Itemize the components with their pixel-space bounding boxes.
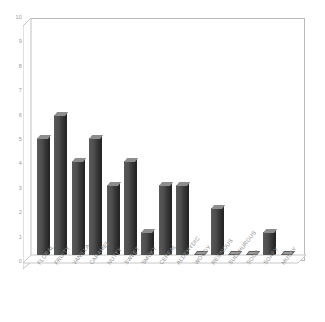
- bar-slot: [122, 18, 139, 261]
- bar-slot: [174, 18, 191, 261]
- bar-side-face: [65, 112, 67, 255]
- bar-slot: [70, 18, 87, 261]
- bar-floral[interactable]: [37, 138, 48, 255]
- bar-cereal[interactable]: [159, 185, 170, 255]
- bar-sweet[interactable]: [124, 161, 135, 255]
- bar-slot: [52, 18, 69, 261]
- bar-fruity[interactable]: [54, 115, 65, 255]
- y-tick-1: 1: [0, 234, 22, 241]
- y-tick-3: 3: [0, 185, 22, 192]
- bar-side-face: [100, 135, 102, 255]
- bar-slot: [105, 18, 122, 261]
- bar-side-face: [83, 159, 85, 255]
- bar-series: [31, 18, 305, 261]
- y-tick-8: 8: [0, 63, 22, 70]
- y-tick-4: 4: [0, 160, 22, 167]
- y-tick-0: 0: [0, 258, 22, 265]
- bar-slot: [139, 18, 156, 261]
- bar-slot: [261, 18, 278, 261]
- bar-slot: [157, 18, 174, 261]
- bar-slot: [35, 18, 52, 261]
- bar-slot: [244, 18, 261, 261]
- bar-slot: [192, 18, 209, 261]
- bar-chart: 10 9 8 7 6 5 4 3 2 1 0 FLORALFRUITYVANIL…: [0, 0, 325, 322]
- y-tick-10: 10: [0, 14, 22, 21]
- bar-aldehydic[interactable]: [176, 185, 187, 255]
- bar-top-face: [107, 182, 121, 186]
- bar-slot: [226, 18, 243, 261]
- y-tick-9: 9: [0, 38, 22, 45]
- y-tick-7: 7: [0, 87, 22, 94]
- bar-side-face: [48, 135, 50, 255]
- axis-left-wall: [23, 18, 31, 269]
- bar-side-face: [118, 182, 120, 255]
- y-tick-5: 5: [0, 136, 22, 143]
- bar-slot: [279, 18, 296, 261]
- y-tick-2: 2: [0, 209, 22, 216]
- y-tick-6: 6: [0, 112, 22, 119]
- bar-slot: [87, 18, 104, 261]
- bar-vanilla[interactable]: [72, 161, 83, 255]
- y-axis: 10 9 8 7 6 5 4 3 2 1 0: [0, 14, 22, 266]
- x-axis: FLORALFRUITYVANILLACARAMELNUTTYSWEETSMOK…: [31, 262, 321, 320]
- bar-side-face: [135, 159, 137, 255]
- bar-slot: [209, 18, 226, 261]
- bar-caramel[interactable]: [89, 138, 100, 255]
